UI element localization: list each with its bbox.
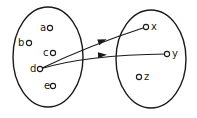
relation-d-to-x-line: [40, 27, 146, 69]
relation-d-to-y-line: [40, 54, 167, 69]
element-label: d: [30, 63, 36, 74]
element-label: b: [18, 37, 24, 48]
element-a: a: [40, 22, 53, 33]
element-point-icon: [143, 24, 148, 29]
element-point-icon: [50, 50, 55, 55]
element-label: a: [40, 22, 46, 33]
element-label: z: [144, 71, 149, 82]
element-c: c: [43, 47, 56, 58]
element-point-icon: [164, 51, 169, 56]
element-point-icon: [136, 74, 141, 79]
element-point-icon: [26, 40, 31, 45]
element-label: y: [172, 48, 178, 59]
element-label: x: [151, 21, 157, 32]
element-label: e: [44, 80, 50, 91]
element-point-icon: [37, 66, 42, 71]
element-point-icon: [50, 83, 55, 88]
element-y: y: [164, 48, 178, 59]
element-label: c: [43, 47, 49, 58]
element-b: b: [18, 37, 32, 48]
element-z: z: [136, 71, 149, 82]
element-d: d: [30, 63, 43, 74]
element-e: e: [44, 80, 56, 91]
elements-layer: abcdexyz: [18, 21, 178, 91]
relations-layer: [40, 27, 167, 69]
set-mapping-diagram: abcdexyz: [0, 0, 197, 118]
element-point-icon: [47, 25, 52, 30]
element-x: x: [143, 21, 157, 32]
